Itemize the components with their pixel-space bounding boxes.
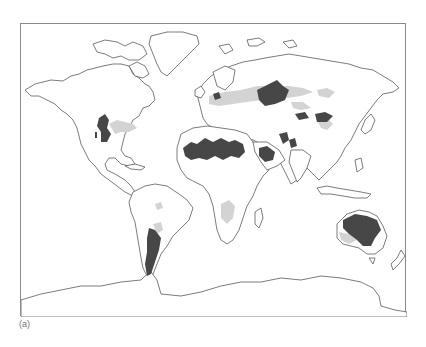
philippines <box>355 158 363 172</box>
madagascar <box>255 208 263 228</box>
antarctica <box>21 272 407 317</box>
svalbard <box>219 44 233 54</box>
greenland <box>149 32 199 76</box>
figure-label: (a) <box>19 319 30 329</box>
indonesia <box>317 186 371 198</box>
arctic-islands <box>93 40 147 60</box>
great-basin-small <box>95 132 97 138</box>
north-america <box>25 64 155 196</box>
world-map <box>21 24 407 317</box>
continents <box>21 32 407 317</box>
south-america <box>129 184 193 282</box>
novaya-zemlya <box>247 38 265 46</box>
severnaya-zemlya <box>283 40 297 48</box>
tasmania <box>369 258 375 264</box>
world-map-frame <box>20 23 406 316</box>
new-zealand <box>391 250 405 270</box>
